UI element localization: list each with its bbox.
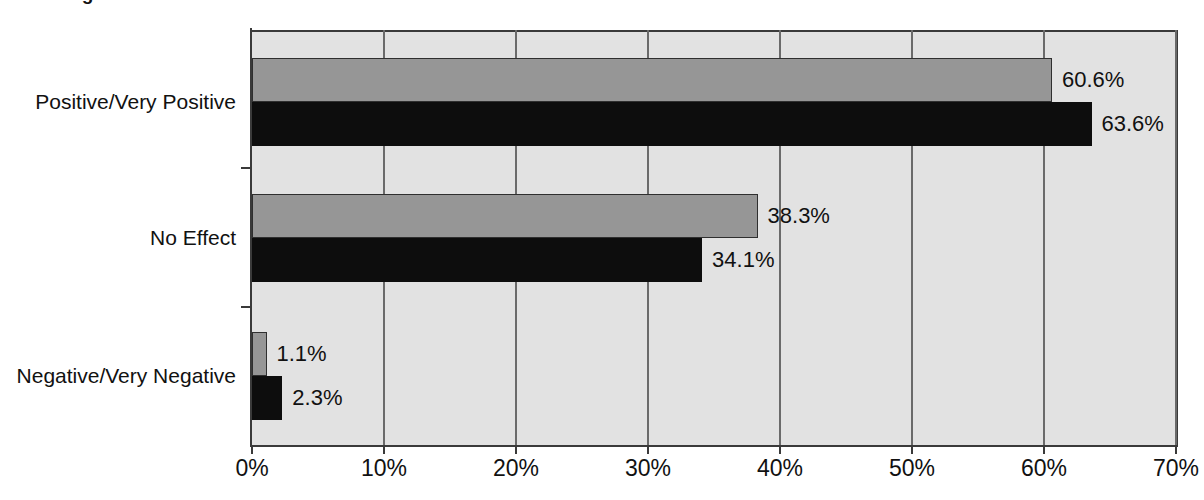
bar-value-label: 60.6% <box>1062 69 1124 91</box>
bar-value-label: 2.3% <box>292 387 342 409</box>
x-axis-tick <box>911 445 913 454</box>
category-label: Negative/Very Negative <box>0 365 236 386</box>
gridline <box>1175 30 1177 445</box>
x-axis-tick <box>515 445 517 454</box>
x-axis-tick <box>647 445 649 454</box>
x-axis-tick-label: 70% <box>1153 457 1199 480</box>
category-label: No Effect <box>0 227 236 248</box>
x-axis-tick <box>779 445 781 454</box>
x-axis-tick-label: 10% <box>361 457 407 480</box>
bar-value-label: 38.3% <box>768 205 830 227</box>
x-axis-line <box>250 445 1178 447</box>
bar-series-2 <box>252 102 1092 146</box>
y-axis-tick <box>241 306 251 308</box>
bar-chart: 0%10%20%30%40%50%60%70% Positive/Very Po… <box>0 0 1204 500</box>
bar-series-1 <box>252 58 1052 102</box>
bar-value-label: 63.6% <box>1102 113 1164 135</box>
bar-value-label: 1.1% <box>277 343 327 365</box>
y-axis-tick <box>241 167 251 169</box>
x-axis-tick-label: 20% <box>493 457 539 480</box>
bar-series-2 <box>252 376 282 420</box>
x-axis-tick <box>1175 445 1177 454</box>
bar-series-2 <box>252 238 702 282</box>
x-axis-tick <box>383 445 385 454</box>
bar-series-1 <box>252 194 758 238</box>
bar-value-label: 34.1% <box>712 249 774 271</box>
category-label: Positive/Very Positive <box>0 91 236 112</box>
x-axis-tick <box>1043 445 1045 454</box>
x-axis-tick <box>251 445 253 454</box>
bar-series-1 <box>252 332 267 376</box>
x-axis-tick-label: 0% <box>235 457 268 480</box>
x-axis-tick-label: 50% <box>889 457 935 480</box>
x-axis-tick-label: 60% <box>1021 457 1067 480</box>
x-axis-tick-label: 40% <box>757 457 803 480</box>
x-axis-tick-label: 30% <box>625 457 671 480</box>
